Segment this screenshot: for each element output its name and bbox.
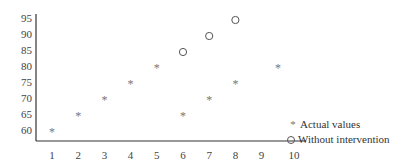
y-tick-label: 95 — [21, 12, 33, 24]
legend-label: Without intervention — [298, 132, 390, 147]
x-tick-label: 6 — [180, 149, 186, 161]
circle-point — [232, 16, 239, 23]
asterisk-point: * — [49, 125, 55, 139]
y-tick-label: 65 — [21, 108, 33, 120]
x-tick-label: 8 — [233, 149, 239, 161]
legend-item-actual: * Actual values — [286, 117, 390, 132]
y-tick-labels: 6065707580859095 — [21, 12, 33, 136]
x-tick-label: 3 — [102, 149, 108, 161]
asterisk-point: * — [101, 93, 107, 107]
open-circle-marker-icon — [287, 136, 295, 144]
y-tick-label: 90 — [21, 28, 33, 40]
circle-point — [179, 48, 186, 55]
y-tick-label: 75 — [21, 76, 33, 88]
asterisk-point: * — [128, 77, 134, 91]
asterisk-point: * — [75, 109, 81, 123]
asterisk-point: * — [154, 61, 160, 75]
x-tick-label: 1 — [49, 149, 55, 161]
asterisk-point: * — [275, 61, 281, 75]
asterisk-point: * — [232, 77, 238, 91]
asterisk-point: * — [180, 109, 186, 123]
circle-point — [206, 32, 213, 39]
legend: * Actual values Without intervention — [286, 117, 390, 147]
asterisk-point: * — [206, 93, 212, 107]
x-tick-label: 7 — [206, 149, 212, 161]
y-tick-label: 70 — [21, 92, 33, 104]
asterisk-marker-icon: * — [286, 117, 300, 132]
y-tick-label: 80 — [21, 60, 33, 72]
x-tick-label: 9 — [259, 149, 265, 161]
x-tick-label: 10 — [289, 149, 301, 161]
data-points: ********* — [49, 16, 281, 139]
legend-label: Actual values — [300, 117, 360, 132]
legend-item-without-intervention: Without intervention — [286, 132, 390, 147]
x-tick-label: 2 — [75, 149, 81, 161]
x-tick-label: 4 — [128, 149, 134, 161]
y-tick-label: 60 — [21, 124, 33, 136]
y-tick-label: 85 — [21, 44, 33, 56]
x-tick-label: 5 — [154, 149, 160, 161]
x-tick-labels: 12345678910 — [49, 149, 300, 161]
